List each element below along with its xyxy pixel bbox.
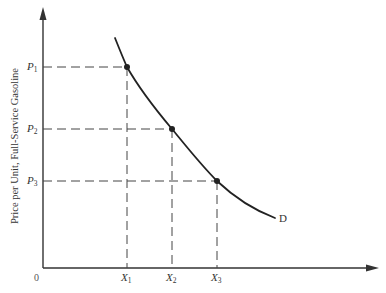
origin-label: 0 bbox=[34, 273, 39, 283]
chart-canvas bbox=[0, 0, 386, 293]
x-tick-x3-base: X bbox=[211, 271, 218, 283]
y-tick-p2: P2 bbox=[27, 123, 37, 136]
x-tick-x1: X1 bbox=[121, 272, 131, 285]
y-axis-label: Price per Unit, Full-Service Gasoline bbox=[9, 68, 20, 224]
y-tick-p2-sub: 2 bbox=[34, 127, 38, 136]
point-p2-x2 bbox=[169, 126, 175, 132]
y-tick-p1: P1 bbox=[27, 61, 37, 74]
y-tick-p3: P3 bbox=[27, 175, 37, 188]
x-axis-arrow-icon bbox=[366, 265, 379, 272]
curve-label-d: D bbox=[279, 213, 287, 224]
y-tick-p2-base: P bbox=[27, 122, 34, 134]
x-tick-x2: X2 bbox=[166, 272, 176, 285]
y-axis-arrow-icon bbox=[40, 7, 47, 20]
horizontal-guides bbox=[43, 67, 217, 181]
x-tick-x2-sub: 2 bbox=[173, 276, 177, 285]
demand-curve bbox=[115, 38, 275, 218]
x-tick-x2-base: X bbox=[166, 271, 173, 283]
y-tick-p3-base: P bbox=[27, 174, 34, 186]
x-tick-x3: X3 bbox=[211, 272, 221, 285]
y-tick-p1-base: P bbox=[27, 60, 34, 72]
y-tick-p1-sub: 1 bbox=[34, 65, 38, 74]
x-tick-x1-sub: 1 bbox=[128, 276, 132, 285]
point-p3-x3 bbox=[214, 178, 220, 184]
point-p1-x1 bbox=[124, 64, 130, 70]
y-tick-p3-sub: 3 bbox=[34, 179, 38, 188]
x-tick-x3-sub: 3 bbox=[218, 276, 222, 285]
x-tick-x1-base: X bbox=[121, 271, 128, 283]
